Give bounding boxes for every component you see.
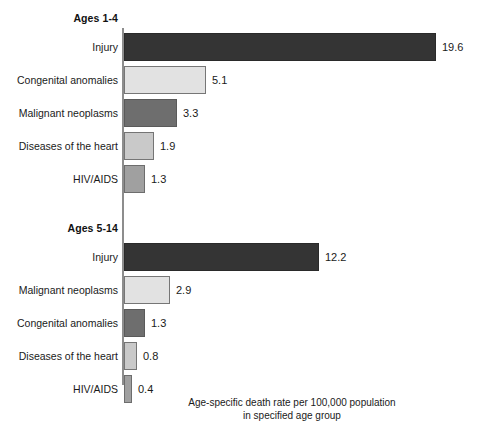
category-label: HIV/AIDS bbox=[0, 375, 118, 403]
category-label: Injury bbox=[0, 33, 118, 61]
category-label: Malignant neoplasms bbox=[0, 276, 118, 304]
death-rate-bar-chart: Ages 1-4 Injury 19.6 Congenital anomalie… bbox=[0, 0, 488, 432]
panel-title-ages-5-14: Ages 5-14 bbox=[0, 222, 118, 234]
bar-rows-ages-5-14: Injury 12.2 Malignant neoplasms 2.9 Cong… bbox=[0, 243, 488, 408]
bar bbox=[124, 276, 170, 304]
category-label: Diseases of the heart bbox=[0, 342, 118, 370]
bar-value-label: 1.3 bbox=[151, 165, 166, 193]
bar bbox=[124, 33, 436, 61]
category-label: Congenital anomalies bbox=[0, 66, 118, 94]
bar-row: Diseases of the heart 1.9 bbox=[0, 132, 488, 165]
bar-value-label: 1.3 bbox=[151, 309, 166, 337]
bar-row: HIV/AIDS 1.3 bbox=[0, 165, 488, 198]
bar-value-label: 5.1 bbox=[212, 66, 227, 94]
category-label: HIV/AIDS bbox=[0, 165, 118, 193]
bar-value-label: 1.9 bbox=[160, 132, 175, 160]
caption-line-1: Age-specific death rate per 100,000 popu… bbox=[122, 396, 462, 409]
bar-rows-ages-1-4: Injury 19.6 Congenital anomalies 5.1 Mal… bbox=[0, 33, 488, 198]
bar bbox=[124, 99, 177, 127]
category-label: Malignant neoplasms bbox=[0, 99, 118, 127]
caption-line-2: in specified age group bbox=[122, 409, 462, 422]
bar bbox=[124, 243, 319, 271]
bar-row: Congenital anomalies 5.1 bbox=[0, 66, 488, 99]
panel-title-ages-1-4: Ages 1-4 bbox=[0, 12, 118, 24]
bar bbox=[124, 66, 206, 94]
bar bbox=[124, 165, 145, 193]
bar bbox=[124, 309, 145, 337]
bar bbox=[124, 342, 137, 370]
bar-row: Congenital anomalies 1.3 bbox=[0, 309, 488, 342]
bar-row: Injury 12.2 bbox=[0, 243, 488, 276]
bar-value-label: 3.3 bbox=[183, 99, 198, 127]
bar-value-label: 2.9 bbox=[176, 276, 191, 304]
bar-value-label: 19.6 bbox=[442, 33, 463, 61]
bar-row: Malignant neoplasms 3.3 bbox=[0, 99, 488, 132]
category-label: Congenital anomalies bbox=[0, 309, 118, 337]
bar-value-label: 0.8 bbox=[143, 342, 158, 370]
category-label: Injury bbox=[0, 243, 118, 271]
chart-caption: Age-specific death rate per 100,000 popu… bbox=[122, 396, 462, 422]
bar bbox=[124, 132, 154, 160]
bar-row: Diseases of the heart 0.8 bbox=[0, 342, 488, 375]
bar-row: Injury 19.6 bbox=[0, 33, 488, 66]
bar-row: Malignant neoplasms 2.9 bbox=[0, 276, 488, 309]
bar-value-label: 12.2 bbox=[325, 243, 346, 271]
category-label: Diseases of the heart bbox=[0, 132, 118, 160]
